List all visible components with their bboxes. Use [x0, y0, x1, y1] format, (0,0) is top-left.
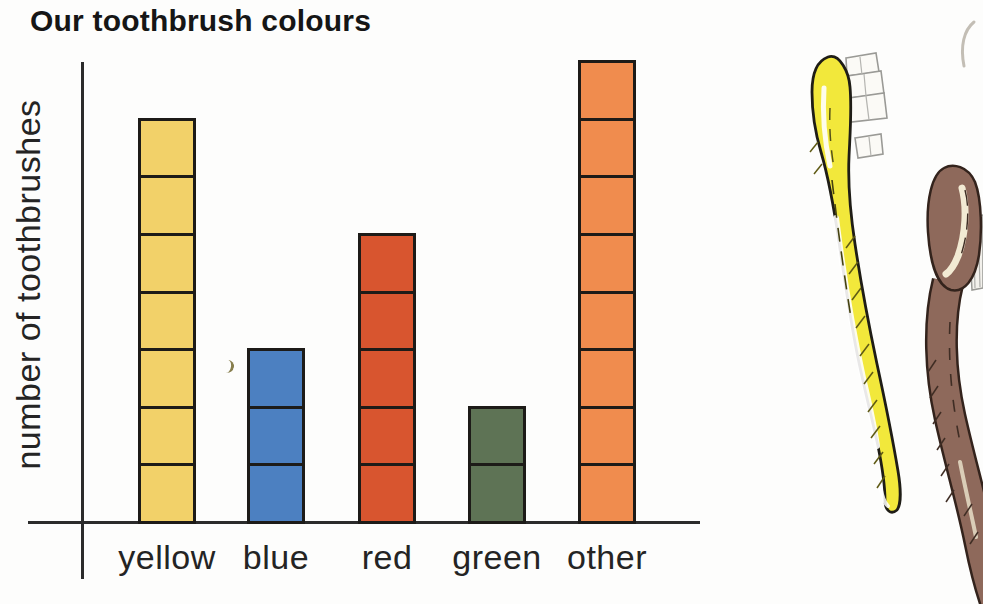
brown-toothbrush-illustration [920, 162, 983, 604]
bar-segment [578, 233, 636, 294]
bar-segment [138, 175, 196, 236]
bar-red [358, 233, 416, 524]
bar-green [468, 406, 526, 524]
bar-segment [138, 463, 196, 524]
bar-segment [138, 291, 196, 352]
scanned-book-page: Our toothbrush colours number of toothbr… [0, 0, 983, 604]
x-axis-label-yellow: yellow [118, 538, 215, 577]
bar-segment [468, 406, 526, 467]
y-axis-line [81, 62, 84, 579]
bar-segment [578, 60, 636, 121]
bar-segment [578, 406, 636, 467]
x-axis-label-green: green [452, 538, 541, 577]
bar-blue [247, 348, 305, 524]
print-smudge-artifact [223, 359, 235, 373]
chart-title: Our toothbrush colours [30, 4, 371, 38]
bar-segment [247, 463, 305, 524]
bar-segment [138, 118, 196, 179]
brown-toothbrush-head [928, 166, 981, 291]
bar-segment [468, 463, 526, 524]
bar-segment [578, 118, 636, 179]
yellow-toothbrush-bristles [846, 53, 887, 158]
x-axis-label-other: other [567, 538, 647, 577]
x-axis-label-blue: blue [243, 538, 309, 577]
bar-segment [138, 406, 196, 467]
bar-segment [138, 348, 196, 409]
bar-segment [578, 291, 636, 352]
bar-segment [358, 233, 416, 294]
bar-segment [247, 348, 305, 409]
bar-yellow [138, 118, 196, 524]
yellow-toothbrush-illustration [780, 48, 930, 528]
y-axis-label: number of toothbrushes [9, 55, 48, 515]
x-axis-label-red: red [362, 538, 413, 577]
bar-segment [358, 463, 416, 524]
bar-segment [358, 348, 416, 409]
bar-segment [138, 233, 196, 294]
bar-other [578, 60, 636, 524]
bar-segment [358, 406, 416, 467]
bar-segment [578, 348, 636, 409]
bar-segment [358, 291, 416, 352]
bar-segment [578, 175, 636, 236]
cropped-illustration-fragment [952, 18, 983, 70]
bar-segment [578, 463, 636, 524]
bar-segment [247, 406, 305, 467]
